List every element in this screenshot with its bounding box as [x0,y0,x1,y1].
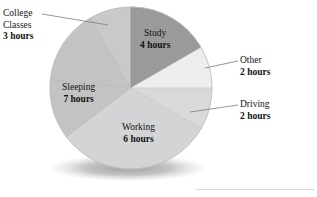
leader-line-other [205,61,238,68]
callout-driving-name: Driving [240,99,270,111]
callout-college-classes-name-line1: College [3,8,33,20]
slice-study-name: Study [140,28,170,40]
callout-label-other: Other 2 hours [240,55,270,78]
slice-study-value: 4 hours [140,40,170,52]
slice-label-study: Study 4 hours [140,28,170,51]
bottom-rule-divider [196,189,314,190]
callout-other-name: Other [240,55,270,67]
callout-other-value: 2 hours [240,67,270,79]
callout-label-college-classes: College Classes 3 hours [3,8,33,43]
pie-chart-figure: College Classes 3 hours Other 2 hours Dr… [0,0,317,197]
callout-college-classes-value: 3 hours [3,31,33,43]
slice-sleeping-value: 7 hours [62,94,95,106]
slice-sleeping-name: Sleeping [62,82,95,94]
callout-college-classes-name-line2: Classes [3,20,33,32]
slice-working-name: Working [122,122,155,134]
slice-label-sleeping: Sleeping 7 hours [62,82,95,105]
slice-label-working: Working 6 hours [122,122,155,145]
callout-driving-value: 2 hours [240,111,270,123]
callout-label-driving: Driving 2 hours [240,99,270,122]
slice-working-value: 6 hours [122,134,155,146]
